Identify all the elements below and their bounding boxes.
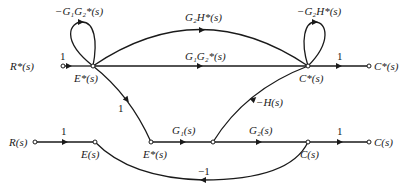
node-r — [33, 140, 37, 144]
gain-g1: G₁(s) — [172, 124, 196, 137]
node-cstar-out — [367, 64, 371, 68]
arrow-icon — [199, 27, 205, 33]
node-mid — [211, 140, 215, 144]
arrow-icon — [336, 63, 342, 69]
label-r: R(s) — [8, 136, 28, 149]
arrow-icon — [180, 139, 186, 145]
label-rstar: R*(s) — [9, 60, 34, 73]
self-loop-estar — [71, 22, 95, 66]
node-c-out — [367, 140, 371, 144]
node-c — [306, 140, 310, 144]
arrow-icon — [256, 139, 262, 145]
label-e: E(s) — [80, 148, 100, 161]
node-cstar — [306, 64, 310, 68]
gain-arc-top: G₂H*(s) — [185, 11, 222, 24]
gain-loop-c: −G₂H*(s) — [297, 5, 342, 18]
arrow-icon — [200, 177, 206, 183]
gain-minus-h: −H(s) — [256, 96, 283, 109]
gain-g2: G₂(s) — [249, 124, 273, 137]
label-cstar: C*(s) — [299, 72, 324, 85]
node-rstar — [61, 64, 65, 68]
label-estar-b: E*(s) — [142, 148, 167, 161]
gain-feedback: −1 — [198, 165, 210, 177]
gain-straight-top: G₁G₂*(s) — [185, 50, 226, 63]
node-e — [93, 140, 97, 144]
gain-cstar-out: 1 — [337, 50, 343, 62]
gain-r-e: 1 — [61, 125, 67, 137]
label-cstar-out: C*(s) — [374, 60, 399, 73]
arrow-icon — [197, 63, 203, 69]
arrow-icon — [66, 63, 72, 69]
gain-rstar-estar: 1 — [60, 50, 66, 62]
arrow-icon — [312, 19, 318, 25]
gain-loop-e: −G₁G₂*(s) — [55, 5, 103, 18]
gain-c-out: 1 — [337, 125, 343, 137]
label-c: C(s) — [300, 148, 319, 161]
node-estar-b — [149, 140, 153, 144]
arrow-icon — [78, 19, 84, 25]
self-loop-cstar — [304, 22, 325, 66]
label-c-out: C(s) — [374, 136, 393, 149]
arrow-icon — [337, 139, 343, 145]
arrow-icon — [62, 139, 68, 145]
signal-flow-graph: R*(s) E*(s) C*(s) C*(s) R(s) E(s) E*(s) … — [0, 0, 406, 192]
label-estar: E*(s) — [73, 72, 98, 85]
gain-estar-down: 1 — [118, 102, 124, 114]
node-estar — [91, 64, 95, 68]
